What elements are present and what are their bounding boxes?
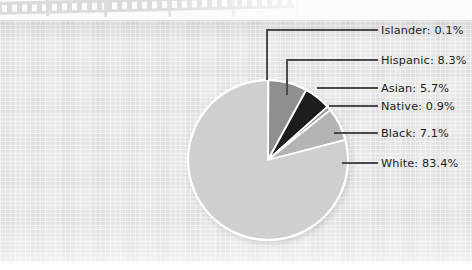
- slice-label-islander: Islander: 0.1%: [381, 24, 464, 37]
- leader-line-islander: [267, 30, 378, 80]
- leader-line-asian: [318, 88, 378, 89]
- slice-label-black: Black: 7.1%: [381, 127, 449, 140]
- slice-label-hispanic: Hispanic: 8.3%: [381, 54, 467, 67]
- scanned-chart-page: Islander: 0.1% Hispanic: 8.3% Asian: 5.7…: [0, 0, 472, 270]
- slice-label-native: Native: 0.9%: [381, 100, 455, 113]
- leader-line-native: [330, 105, 378, 106]
- slice-label-asian: Asian: 5.7%: [381, 82, 449, 95]
- leader-line-hispanic: [287, 60, 378, 95]
- slice-label-white: White: 83.4%: [381, 157, 458, 170]
